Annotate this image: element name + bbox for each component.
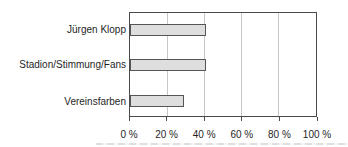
category-label: Jürgen Klopp [0,24,126,36]
category-label: Stadion/Stimmung/Fans [0,59,126,71]
x-tick-label: 100 % [303,129,331,141]
x-tick-label: 0 % [120,129,137,141]
bar-0 [130,24,206,36]
x-tick-label: 60 % [230,129,253,141]
scan-artifact-line [96,143,348,145]
x-tick-label: 20 % [155,129,178,141]
bar-2 [130,95,184,107]
gridline-60 [241,13,242,116]
x-axis-tick-80 [279,117,280,121]
x-axis-tick-40 [204,117,205,121]
x-axis-tick-0 [129,117,130,121]
category-label: Vereinsfarben [0,96,126,108]
x-axis-tick-20 [166,117,167,121]
x-axis-tick-100 [317,117,318,121]
plot-area [129,12,317,117]
bar-chart: Jürgen KloppStadion/Stimmung/FansVereins… [0,0,348,147]
x-axis-tick-60 [241,117,242,121]
x-tick-label: 40 % [193,129,216,141]
category-axis: Jürgen KloppStadion/Stimmung/FansVereins… [0,0,126,147]
bar-1 [130,59,206,71]
gridline-80 [278,13,279,116]
x-tick-label: 80 % [268,129,291,141]
